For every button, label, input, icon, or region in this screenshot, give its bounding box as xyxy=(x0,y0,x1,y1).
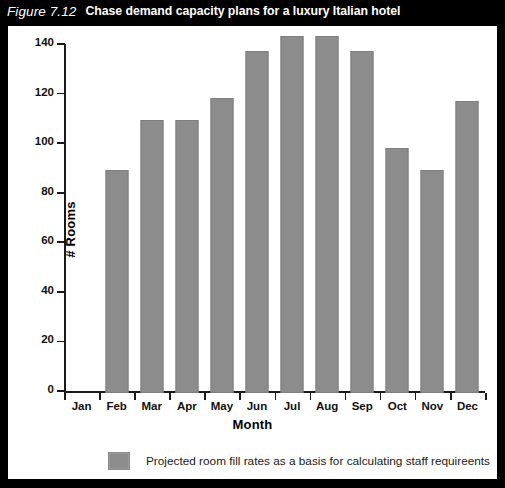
x-axis-tick-label: Dec xyxy=(450,400,485,412)
x-axis-tick-label: Apr xyxy=(169,400,204,412)
x-axis-tick-label: Feb xyxy=(99,400,134,412)
y-axis-tick xyxy=(57,390,65,392)
bar-slot xyxy=(169,44,204,393)
y-axis-tick xyxy=(57,43,65,45)
bar[interactable] xyxy=(456,101,479,393)
bar-slot xyxy=(99,44,134,393)
bar[interactable] xyxy=(421,170,444,393)
bar[interactable] xyxy=(140,120,163,393)
x-axis-tick-label: Jan xyxy=(64,400,99,412)
y-axis-tick-label: 20 xyxy=(10,333,54,345)
bar-slot xyxy=(204,44,239,393)
x-axis-tick-label: Sep xyxy=(345,400,380,412)
figure-container: Figure 7.12 Chase demand capacity plans … xyxy=(0,0,505,488)
y-axis-tick xyxy=(57,241,65,243)
x-axis-tick-label: Jun xyxy=(239,400,274,412)
y-axis-tick xyxy=(57,142,65,144)
y-axis-tick-labels: 020406080100120140 xyxy=(8,26,54,431)
x-axis-tick-label: Aug xyxy=(310,400,345,412)
figure-caption: Chase demand capacity plans for a luxury… xyxy=(85,4,400,18)
bar-slot xyxy=(380,44,415,393)
x-axis-tick xyxy=(275,393,277,400)
x-axis-tick xyxy=(310,393,312,400)
y-axis-tick xyxy=(57,192,65,194)
x-axis-tick xyxy=(345,393,347,400)
y-axis-tick-label: 140 xyxy=(10,36,54,48)
bar-slot xyxy=(275,44,310,393)
y-axis-tick-label: 0 xyxy=(10,383,54,395)
bar-slot xyxy=(345,44,380,393)
bar[interactable] xyxy=(175,120,198,393)
chart-legend: Projected room fill rates as a basis for… xyxy=(24,449,481,473)
y-axis-tick-label: 80 xyxy=(10,185,54,197)
x-axis-tick xyxy=(204,393,206,400)
y-axis-tick-label: 120 xyxy=(10,86,54,98)
bar-slot xyxy=(134,44,169,393)
bar[interactable] xyxy=(245,51,268,393)
x-axis-tick-label: Mar xyxy=(134,400,169,412)
bar[interactable] xyxy=(351,51,374,393)
x-axis-tick-label: Jul xyxy=(275,400,310,412)
x-axis-title: Month xyxy=(8,417,497,432)
x-axis-tick xyxy=(64,393,66,400)
x-axis-tick xyxy=(485,393,487,400)
y-axis-tick-label: 100 xyxy=(10,135,54,147)
bar-slot xyxy=(450,44,485,393)
bar-slot xyxy=(310,44,345,393)
bar[interactable] xyxy=(281,36,304,393)
x-axis-tick-label: May xyxy=(204,400,239,412)
plot-area: # Rooms 020406080100120140 Month JanFebM… xyxy=(8,26,497,431)
x-axis-tick xyxy=(169,393,171,400)
figure-title-bar: Figure 7.12 Chase demand capacity plans … xyxy=(0,0,505,22)
x-axis-tick xyxy=(450,393,452,400)
bar[interactable] xyxy=(316,36,339,393)
y-axis-tick xyxy=(57,291,65,293)
bar[interactable] xyxy=(105,170,128,393)
x-axis-tick-label: Nov xyxy=(415,400,450,412)
y-axis-tick xyxy=(57,93,65,95)
x-axis-tick-label: Oct xyxy=(380,400,415,412)
y-axis-tick-label: 40 xyxy=(10,284,54,296)
x-axis-tick xyxy=(134,393,136,400)
x-axis-tick xyxy=(239,393,241,400)
bar[interactable] xyxy=(210,98,233,393)
y-axis-tick-label: 60 xyxy=(10,234,54,246)
bar[interactable] xyxy=(386,148,409,393)
legend-label: Projected room fill rates as a basis for… xyxy=(146,454,490,468)
chart-panel: # Rooms 020406080100120140 Month JanFebM… xyxy=(8,26,497,479)
y-axis-tick xyxy=(57,341,65,343)
bar-slot xyxy=(64,44,99,393)
bar-slot xyxy=(415,44,450,393)
x-axis-tick xyxy=(99,393,101,400)
bar-series xyxy=(64,44,485,393)
x-axis-tick xyxy=(380,393,382,400)
figure-number: Figure 7.12 xyxy=(7,4,76,19)
x-axis-tick xyxy=(415,393,417,400)
legend-swatch-icon xyxy=(108,452,130,470)
bar-slot xyxy=(239,44,274,393)
